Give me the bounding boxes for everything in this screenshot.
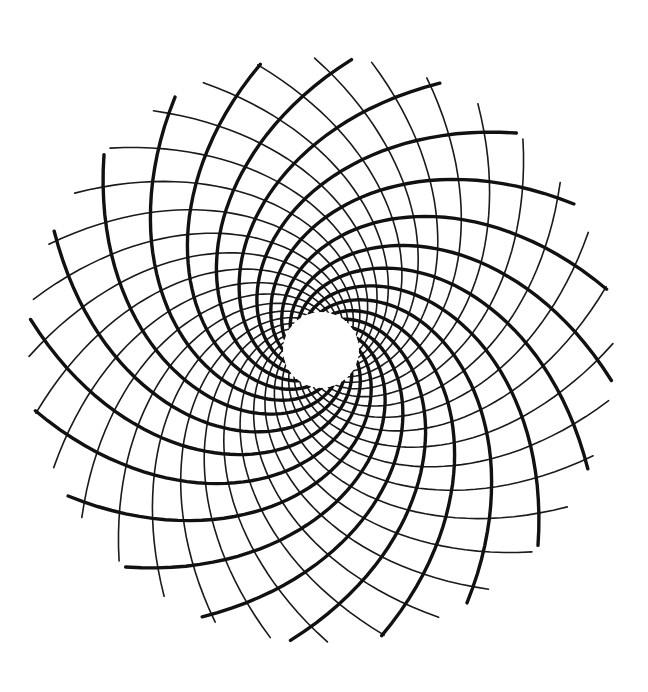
thin-spiral-arm — [342, 78, 461, 382]
center-hole — [283, 312, 359, 388]
thin-spiral-arm — [49, 210, 353, 329]
spiral-lattice-figure — [0, 0, 648, 692]
thin-spiral-arm — [289, 371, 593, 490]
thin-spiral-arm — [181, 318, 300, 622]
